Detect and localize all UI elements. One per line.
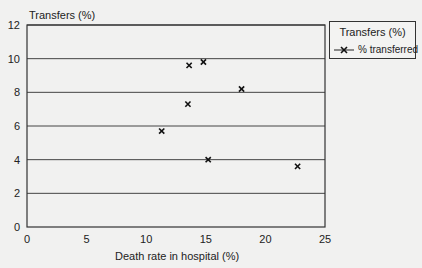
y-tick-label: 6 (14, 120, 20, 132)
y-axis-label: Transfers (%) (29, 9, 95, 21)
y-tick-label: 10 (8, 53, 20, 65)
legend-title: Transfers (%) (330, 26, 415, 38)
y-tick-label: 4 (14, 154, 20, 166)
x-marker-icon (334, 45, 354, 55)
y-tick-label: 8 (14, 86, 20, 98)
x-axis-label: Death rate in hospital (%) (115, 250, 239, 262)
legend-entry-transferred: % transferred (334, 44, 418, 55)
x-tick-label: 25 (319, 233, 331, 245)
legend: Transfers (%) % transferred (329, 21, 416, 59)
legend-entry-label: % transferred (358, 44, 418, 55)
x-tick-label: 0 (24, 233, 30, 245)
y-tick-label: 12 (8, 19, 20, 31)
x-tick-label: 10 (140, 233, 152, 245)
x-tick-label: 20 (259, 233, 271, 245)
x-tick-label: 5 (84, 233, 90, 245)
x-tick-label: 15 (200, 233, 212, 245)
y-tick-label: 2 (14, 187, 20, 199)
y-tick-label: 0 (14, 221, 20, 233)
